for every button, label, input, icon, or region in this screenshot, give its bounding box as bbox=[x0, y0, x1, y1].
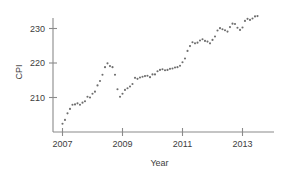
data-point bbox=[176, 66, 178, 68]
data-point bbox=[136, 78, 138, 80]
data-point bbox=[221, 28, 223, 30]
data-point bbox=[106, 62, 108, 64]
data-points-layer bbox=[61, 15, 258, 125]
data-point bbox=[74, 103, 76, 105]
data-point bbox=[64, 119, 66, 121]
data-point bbox=[146, 75, 148, 77]
y-tick-label: 230 bbox=[30, 24, 45, 34]
data-point bbox=[141, 76, 143, 78]
y-tick-label: 210 bbox=[30, 93, 45, 103]
data-point bbox=[81, 102, 83, 104]
data-point bbox=[189, 45, 191, 47]
data-point bbox=[181, 61, 183, 63]
data-point bbox=[216, 30, 218, 32]
data-point bbox=[224, 29, 226, 31]
data-point bbox=[134, 77, 136, 79]
data-point bbox=[76, 102, 78, 104]
data-point bbox=[131, 83, 133, 85]
data-point bbox=[84, 100, 86, 102]
data-point bbox=[199, 40, 201, 42]
data-point bbox=[234, 23, 236, 25]
data-point bbox=[191, 41, 193, 43]
data-point bbox=[171, 67, 173, 69]
data-point bbox=[211, 39, 213, 41]
data-point bbox=[99, 80, 101, 82]
data-point bbox=[151, 73, 153, 75]
data-point bbox=[174, 66, 176, 68]
data-point bbox=[249, 19, 251, 21]
data-point bbox=[66, 112, 68, 114]
data-point bbox=[71, 104, 73, 106]
x-axis-title: Year bbox=[150, 158, 168, 168]
data-point bbox=[244, 20, 246, 22]
data-point bbox=[91, 93, 93, 95]
data-point bbox=[154, 73, 156, 75]
data-point bbox=[126, 87, 128, 89]
data-point bbox=[161, 68, 163, 70]
data-point bbox=[96, 84, 98, 86]
y-axis-title: CPI bbox=[14, 64, 24, 79]
data-point bbox=[166, 69, 168, 71]
x-axis: 2007200920112013 Year bbox=[52, 128, 274, 168]
data-point bbox=[226, 31, 228, 33]
data-point bbox=[256, 15, 258, 17]
data-point bbox=[196, 42, 198, 44]
data-point bbox=[111, 66, 113, 68]
data-point bbox=[121, 93, 123, 95]
data-point bbox=[129, 85, 131, 87]
y-axis: 210220230 CPI bbox=[14, 18, 57, 132]
data-point bbox=[239, 29, 241, 31]
data-point bbox=[101, 74, 103, 76]
data-point bbox=[241, 26, 243, 28]
data-point bbox=[179, 65, 181, 67]
data-point bbox=[156, 70, 158, 72]
data-point bbox=[149, 76, 151, 78]
data-point bbox=[116, 88, 118, 90]
data-point bbox=[186, 50, 188, 52]
data-point bbox=[231, 23, 233, 25]
data-point bbox=[251, 17, 253, 19]
data-point bbox=[109, 65, 111, 67]
data-point bbox=[164, 69, 166, 71]
data-point bbox=[144, 75, 146, 77]
data-point bbox=[104, 66, 106, 68]
data-point bbox=[236, 27, 238, 29]
data-point bbox=[206, 41, 208, 43]
data-point bbox=[139, 76, 141, 78]
y-tick-label: 220 bbox=[30, 58, 45, 68]
data-point bbox=[194, 42, 196, 44]
data-point bbox=[124, 89, 126, 91]
x-tick-label: 2007 bbox=[52, 139, 72, 149]
data-point bbox=[69, 108, 71, 110]
data-point bbox=[201, 38, 203, 40]
data-point bbox=[79, 104, 81, 106]
data-point bbox=[94, 91, 96, 93]
x-tick-label: 2013 bbox=[232, 139, 252, 149]
data-point bbox=[219, 27, 221, 29]
data-point bbox=[86, 96, 88, 98]
data-point bbox=[119, 96, 121, 98]
data-point bbox=[89, 96, 91, 98]
data-point bbox=[159, 69, 161, 71]
data-point bbox=[214, 35, 216, 37]
data-point bbox=[184, 57, 186, 59]
chart-canvas: 210220230 CPI 2007200920112013 Year bbox=[0, 0, 284, 175]
data-point bbox=[229, 26, 231, 28]
data-point bbox=[254, 15, 256, 17]
data-point bbox=[246, 18, 248, 20]
data-point bbox=[209, 42, 211, 44]
x-tick-label: 2009 bbox=[112, 139, 132, 149]
cpi-scatter-chart: 210220230 CPI 2007200920112013 Year bbox=[0, 0, 284, 175]
data-point bbox=[61, 123, 63, 125]
data-point bbox=[169, 68, 171, 70]
x-tick-label: 2011 bbox=[173, 139, 192, 149]
data-point bbox=[204, 40, 206, 42]
data-point bbox=[114, 74, 116, 76]
x-tick-group: 2007200920112013 bbox=[52, 128, 252, 149]
